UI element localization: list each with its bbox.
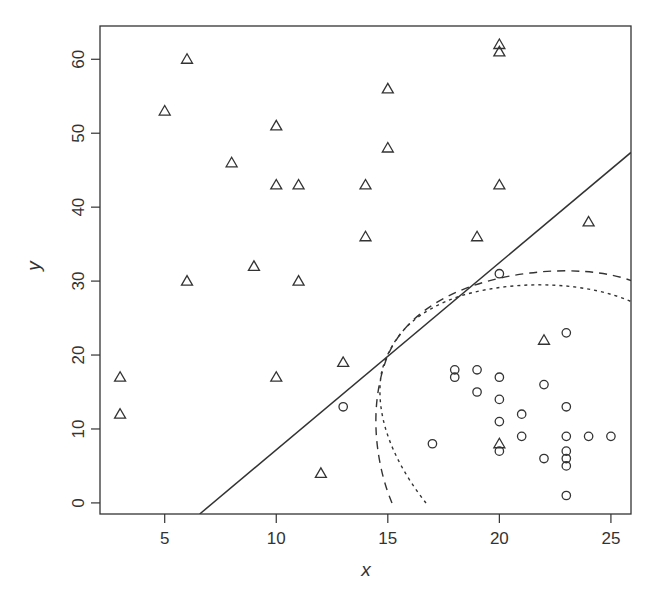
triangle-point [494, 179, 505, 189]
triangle-point [338, 357, 349, 367]
y-tick-label: 0 [69, 498, 88, 507]
dashed-boundary-curve [376, 271, 632, 503]
x-tick-label: 10 [267, 529, 286, 548]
circle-point [495, 417, 503, 425]
circle-point [473, 366, 481, 374]
x-tick-label: 5 [160, 529, 169, 548]
y-axis-label: y [23, 260, 44, 273]
circle-point [495, 269, 503, 277]
circle-point [540, 380, 548, 388]
triangle-point [293, 179, 304, 189]
triangle-point [182, 54, 193, 64]
circle-point [540, 454, 548, 462]
triangle-point [494, 46, 505, 56]
triangle-point [159, 106, 170, 116]
scatter-chart: 5101520250102030405060 x y [0, 0, 655, 603]
circle-point [495, 373, 503, 381]
dotted-boundary-curve [380, 285, 632, 503]
triangle-point [271, 120, 282, 129]
y-tick-label: 50 [69, 124, 88, 143]
triangle-point [293, 276, 304, 286]
triangle-point [382, 143, 393, 153]
triangle-point [115, 409, 126, 419]
linear-boundary-line [200, 152, 631, 514]
y-tick-label: 60 [69, 50, 88, 69]
circle-point [562, 403, 570, 411]
triangle-point [583, 216, 594, 226]
triangle-point [248, 261, 259, 271]
circle-point [584, 432, 592, 440]
circle-point [517, 432, 525, 440]
circle-point [517, 410, 525, 418]
triangle-point [382, 83, 393, 93]
circle-point [428, 440, 436, 448]
triangle-point [271, 372, 282, 382]
y-tick-label: 30 [69, 272, 88, 291]
y-tick-label: 20 [69, 346, 88, 365]
y-tick-label: 10 [69, 420, 88, 439]
x-tick-label: 15 [378, 529, 397, 548]
axes: 5101520250102030405060 [69, 26, 631, 548]
plot-area [200, 152, 632, 514]
circle-point [562, 491, 570, 499]
triangle-point [538, 335, 549, 345]
triangle-point [226, 157, 237, 167]
circle-point [562, 329, 570, 337]
triangle-point [360, 231, 371, 241]
data-markers [115, 39, 616, 500]
triangle-point [472, 231, 483, 241]
x-tick-label: 20 [490, 529, 509, 548]
triangle-point [315, 468, 326, 478]
circle-point [607, 432, 615, 440]
triangle-point [360, 179, 371, 189]
triangle-point [182, 276, 193, 286]
circle-point [562, 432, 570, 440]
triangle-point [271, 179, 282, 189]
plot-frame [100, 26, 631, 514]
circle-point [473, 388, 481, 396]
circle-point [339, 403, 347, 411]
circle-point [495, 395, 503, 403]
x-tick-label: 25 [601, 529, 620, 548]
y-tick-label: 40 [69, 198, 88, 217]
x-axis-label: x [360, 559, 372, 580]
triangle-point [115, 372, 126, 382]
